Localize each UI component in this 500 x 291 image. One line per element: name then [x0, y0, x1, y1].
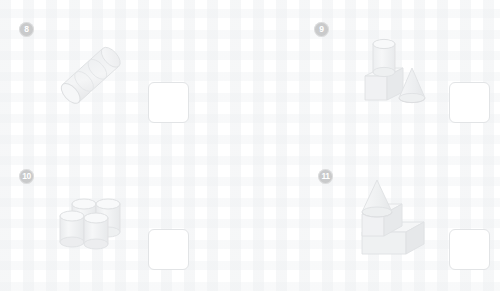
problem-number-badge-11: 11: [318, 169, 333, 184]
cylinder-shape: [373, 39, 395, 76]
cylinder-front-right: [84, 213, 108, 249]
cylinder-front-left: [60, 211, 84, 247]
problem-panel-10: 10: [0, 146, 250, 291]
problem-number-badge-8: 8: [19, 22, 34, 37]
cone-shape: [362, 180, 392, 217]
answer-box-9[interactable]: [449, 82, 490, 123]
figure-cylinder-on-cube-with-cone: [355, 30, 440, 115]
figure-cone-on-cube-on-prism: [350, 174, 440, 264]
problem-panel-8: 8: [0, 0, 250, 146]
answer-box-11[interactable]: [449, 229, 490, 270]
answer-box-10[interactable]: [148, 229, 189, 270]
figure-three-stacked-cylinders-diagonal: [50, 32, 130, 112]
problem-panel-11: 11: [250, 146, 500, 291]
answer-box-8[interactable]: [148, 82, 189, 123]
problem-panel-9: 9: [250, 0, 500, 146]
problem-number-badge-10: 10: [19, 169, 34, 184]
problem-number-badge-9: 9: [314, 22, 329, 37]
cylinder-stack-group: [58, 44, 124, 107]
worksheet: 8: [0, 0, 500, 291]
figure-four-cylinders-cluster: [52, 186, 137, 261]
